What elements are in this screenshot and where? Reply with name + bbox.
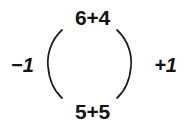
right-parenthesis-arc — [117, 30, 131, 98]
left-parenthesis-arc — [48, 30, 62, 98]
right-operator: +1 — [154, 55, 177, 75]
math-figure: 6+4 −1 +1 5+5 — [0, 0, 185, 129]
left-operator: −1 — [11, 55, 34, 75]
bottom-expression: 5+5 — [0, 101, 185, 122]
